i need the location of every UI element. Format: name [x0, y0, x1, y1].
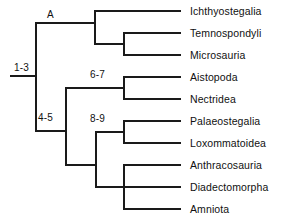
- taxon-label-loxommatoidea: Loxommatoidea: [190, 138, 266, 149]
- taxon-label-amniota: Amniota: [190, 204, 229, 215]
- cladogram-figure: Ichthyostegalia Temnospondyli Microsauri…: [0, 0, 286, 215]
- taxon-label-anthracosauria: Anthracosauria: [190, 160, 262, 171]
- taxon-label-temnospondyli: Temnospondyli: [190, 28, 261, 39]
- taxon-label-palaeostegalia: Palaeostegalia: [190, 116, 260, 127]
- node-label-8-9: 8-9: [90, 114, 105, 124]
- node-label-a: A: [47, 10, 54, 20]
- taxon-label-ichthyostegalia: Ichthyostegalia: [190, 6, 262, 17]
- taxon-label-microsauria: Microsauria: [190, 50, 245, 61]
- taxon-label-nectridea: Nectridea: [190, 94, 236, 105]
- taxon-label-aistopoda: Aistopoda: [190, 72, 238, 83]
- node-label-4-5: 4-5: [38, 113, 53, 123]
- taxon-label-diadectomorpha: Diadectomorpha: [190, 182, 268, 193]
- node-label-1-3: 1-3: [14, 63, 29, 73]
- node-label-6-7: 6-7: [90, 70, 105, 80]
